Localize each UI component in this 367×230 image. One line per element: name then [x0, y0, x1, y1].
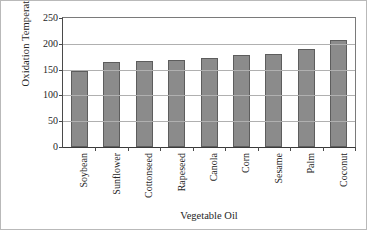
x-tick-mark — [258, 147, 259, 151]
gridline — [63, 70, 355, 71]
x-tick-mark — [95, 147, 96, 151]
bar — [265, 54, 282, 147]
bar — [298, 49, 315, 147]
x-tick-mark — [128, 147, 129, 151]
y-tick-label: 50 — [24, 116, 63, 126]
x-tick-label: Rapeseed — [177, 153, 187, 191]
x-tick-mark — [290, 147, 291, 151]
x-tick-label: Cottonseed — [144, 153, 154, 198]
x-tick-label: Corn — [241, 153, 251, 173]
x-tick-mark — [160, 147, 161, 151]
x-tick-label: Canola — [209, 153, 219, 181]
y-tick-label: 100 — [24, 90, 63, 100]
gridline — [63, 95, 355, 96]
x-tick-mark — [225, 147, 226, 151]
bar — [136, 61, 153, 147]
gridline — [63, 121, 355, 122]
bar — [201, 58, 218, 147]
gridline — [63, 44, 355, 45]
x-tick-label: Sesame — [274, 153, 284, 184]
bar — [103, 62, 120, 147]
x-tick-label: Soybean — [79, 153, 89, 187]
bar — [71, 71, 88, 147]
bar — [330, 40, 347, 147]
x-axis-title: Vegetable Oil — [62, 210, 356, 222]
x-tick-label: Coconut — [339, 153, 349, 187]
bar — [168, 60, 185, 147]
y-tick-label: 0 — [24, 142, 63, 152]
y-tick-label: 200 — [24, 39, 63, 49]
x-tick-mark — [193, 147, 194, 151]
x-tick-mark — [355, 147, 356, 151]
y-tick-label: 150 — [24, 65, 63, 75]
x-tick-mark — [323, 147, 324, 151]
plot-area: 050100150200250SoybeanSunflowerCottonsee… — [62, 17, 356, 148]
y-tick-label: 250 — [24, 13, 63, 23]
x-tick-label: Palm — [306, 153, 316, 174]
bars-group — [63, 18, 355, 147]
x-tick-label: Sunflower — [112, 153, 122, 195]
bar-chart-figure: Oxidation Temperature (°C) 0501001502002… — [0, 0, 367, 230]
